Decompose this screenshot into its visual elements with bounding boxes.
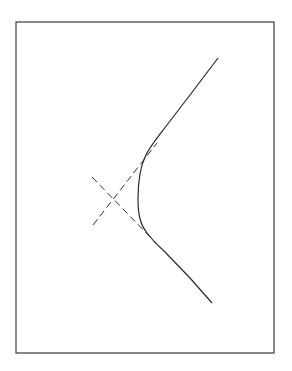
hyperbola-branch bbox=[138, 58, 218, 303]
figure-frame bbox=[16, 22, 274, 353]
hyperbola-diagram bbox=[0, 0, 292, 371]
asymptote-1 bbox=[93, 143, 157, 225]
